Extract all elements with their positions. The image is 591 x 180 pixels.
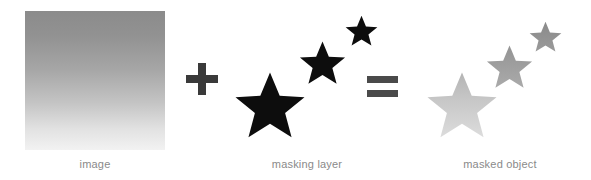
equals-top-bar [367, 76, 398, 83]
mask-medium-star-icon [299, 40, 346, 86]
masked-medium-star-icon [486, 44, 533, 90]
mask-large-star-icon [234, 71, 306, 140]
plus-operator-icon [186, 62, 220, 96]
equals-operator-icon [367, 76, 399, 98]
equals-bottom-bar [367, 90, 398, 97]
diagram-canvas: image masking layer [0, 0, 591, 180]
masked-small-star-icon [529, 21, 562, 53]
mask-small-star-icon [345, 15, 378, 47]
caption-masked-object: masked object [428, 158, 572, 170]
plus-vertical-bar [198, 63, 206, 95]
caption-image: image [25, 158, 165, 170]
caption-masking-layer: masking layer [235, 158, 379, 170]
gradient-image-square [25, 11, 165, 150]
